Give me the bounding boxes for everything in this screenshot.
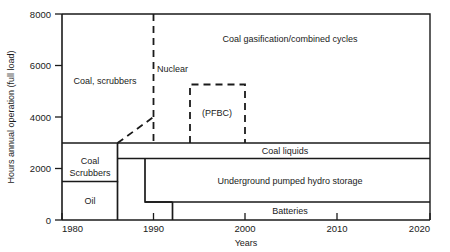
x-axis-title: Years [235, 238, 258, 248]
label-coal-box-line2: Scrubbers [69, 168, 111, 178]
x-tick-label-1980: 1980 [62, 223, 83, 234]
y-tick-label-2000: 2000 [30, 163, 51, 174]
y-tick-label-0: 0 [46, 215, 51, 226]
x-tick-label-2020: 2020 [409, 223, 430, 234]
technology-timeline-chart: 8000 6000 4000 2000 0 1980 1990 2000 201… [0, 0, 450, 252]
label-batteries: Batteries [272, 206, 308, 216]
y-tick-label-4000: 4000 [30, 112, 51, 123]
label-coal-scrubbers-upper: Coal, scrubbers [73, 76, 137, 86]
y-tick-label-8000: 8000 [30, 9, 51, 20]
y-axis-title: Hours annual operation (full load) [6, 50, 16, 183]
label-coal-box-line1: Coal [81, 156, 100, 166]
x-tick-label-2010: 2010 [326, 223, 347, 234]
label-underground-hydro: Underground pumped hydro storage [217, 176, 362, 186]
y-tick-label-6000: 6000 [30, 60, 51, 71]
coal-scrubbers-ramp-dashed [118, 117, 154, 143]
label-pfbc: (PFBC) [202, 108, 232, 118]
y-axis-ticks [55, 14, 62, 220]
label-oil: Oil [85, 196, 96, 206]
label-coal-liquids: Coal liquids [262, 146, 309, 156]
x-tick-label-1990: 1990 [143, 223, 164, 234]
label-nuclear: Nuclear [157, 64, 188, 74]
x-tick-label-2000: 2000 [234, 223, 255, 234]
chart-container: 8000 6000 4000 2000 0 1980 1990 2000 201… [0, 0, 450, 252]
label-coal-gasification: Coal gasification/combined cycles [222, 34, 358, 44]
